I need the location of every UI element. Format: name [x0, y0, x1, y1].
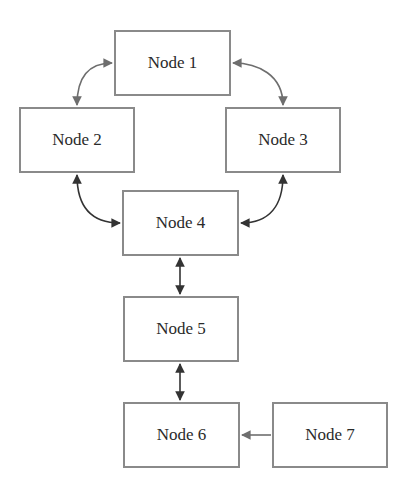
node-3: Node 3 — [225, 107, 341, 173]
node-4: Node 4 — [122, 190, 239, 256]
node-4-label: Node 4 — [156, 213, 206, 233]
edge-node1-node3 — [233, 63, 283, 105]
node-1: Node 1 — [114, 30, 231, 96]
node-1-label: Node 1 — [148, 53, 198, 73]
node-5-label: Node 5 — [156, 319, 206, 339]
edge-node1-node2 — [77, 63, 112, 105]
node-6-label: Node 6 — [157, 425, 207, 445]
edge-node2-node4 — [77, 175, 120, 223]
node-7-label: Node 7 — [305, 425, 355, 445]
edge-node3-node4 — [241, 175, 283, 223]
diagram-canvas: Node 1 Node 2 Node 3 Node 4 Node 5 Node … — [0, 0, 407, 493]
node-2-label: Node 2 — [52, 130, 102, 150]
node-5: Node 5 — [123, 296, 239, 362]
node-7: Node 7 — [272, 402, 388, 468]
node-3-label: Node 3 — [258, 130, 308, 150]
node-6: Node 6 — [123, 402, 240, 468]
node-2: Node 2 — [19, 107, 135, 173]
